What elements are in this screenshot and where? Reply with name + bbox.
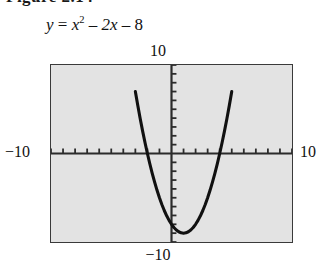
graph-svg (51, 65, 292, 242)
equation-caption: y = x2 – 2x – 8 (46, 15, 143, 35)
figure-heading: Figure 2.14 (0, 0, 330, 7)
equation-equals: = (58, 15, 68, 34)
y-axis-min-label: −10 (0, 246, 330, 264)
x-axis-min-label: −10 (5, 143, 30, 161)
equation-term2: 2x (101, 15, 117, 34)
equation-minus-1: – (89, 15, 98, 34)
equation-lhs: y (46, 15, 54, 34)
graph-plot-area (50, 64, 293, 243)
equation-term3: 8 (135, 15, 144, 34)
y-axis-max-label: 10 (0, 42, 330, 60)
equation-minus-2: – (122, 15, 131, 34)
axes-group (51, 65, 292, 242)
x-axis-max-label: 10 (300, 143, 316, 161)
parabola-curve (135, 92, 231, 234)
equation-term1-exponent: 2 (79, 14, 84, 25)
